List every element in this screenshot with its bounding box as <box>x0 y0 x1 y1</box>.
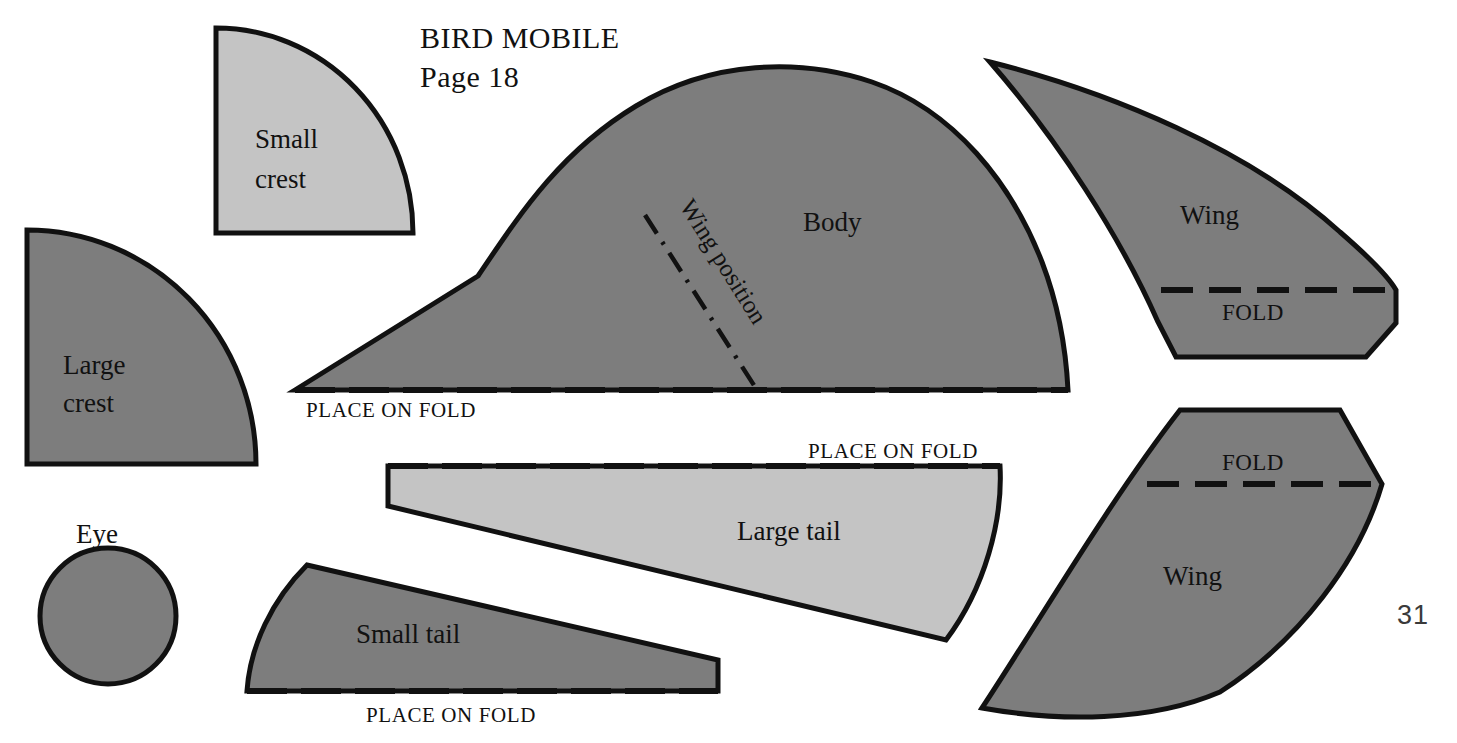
large-tail-place-on-fold-label: PLACE ON FOLD <box>808 439 978 463</box>
large-crest-shape <box>27 230 256 464</box>
pattern-sheet: BIRD MOBILE Page 18 Small crest Large cr… <box>0 0 1457 743</box>
piece-eye[interactable]: Eye <box>40 519 176 684</box>
large-tail-label: Large tail <box>737 516 841 546</box>
piece-body[interactable]: Body Wing position PLACE ON FOLD <box>295 67 1068 422</box>
large-crest-label-line-2: crest <box>63 388 114 418</box>
wing-top-fold-label: FOLD <box>1222 300 1284 325</box>
small-tail-label: Small tail <box>356 619 460 649</box>
body-place-on-fold-label: PLACE ON FOLD <box>306 398 476 422</box>
large-crest-label-line-1: Large <box>63 350 125 380</box>
piece-large-crest[interactable]: Large crest <box>27 230 256 464</box>
piece-small-crest[interactable]: Small crest <box>216 28 413 233</box>
wing-top-label: Wing <box>1180 200 1239 230</box>
piece-small-tail[interactable]: Small tail PLACE ON FOLD <box>247 565 718 727</box>
pattern-diagram: BIRD MOBILE Page 18 Small crest Large cr… <box>0 0 1457 743</box>
small-crest-label-line-1: Small <box>255 124 318 154</box>
body-label: Body <box>803 207 862 237</box>
piece-wing-bottom[interactable]: FOLD Wing <box>982 410 1382 717</box>
small-tail-shape <box>247 565 718 691</box>
eye-label: Eye <box>76 519 118 549</box>
title-line-1: BIRD MOBILE <box>420 21 620 54</box>
wing-bottom-label: Wing <box>1163 561 1222 591</box>
small-crest-label-line-2: crest <box>255 164 306 194</box>
title-line-2: Page 18 <box>420 60 519 93</box>
wing-bottom-fold-label: FOLD <box>1222 450 1284 475</box>
eye-shape <box>40 548 176 684</box>
page-number: 31 <box>1397 600 1429 631</box>
small-tail-place-on-fold-label: PLACE ON FOLD <box>366 703 536 727</box>
